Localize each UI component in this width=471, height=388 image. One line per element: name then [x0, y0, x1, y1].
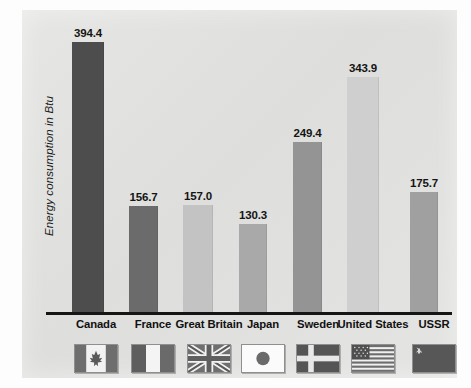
bar-group-great-britain: 157.0 [183, 18, 213, 313]
bar-value-label: 175.7 [410, 177, 438, 189]
x-axis-line [46, 312, 452, 315]
chart-panel: Energy consumption in Btu 394.4156.7157.… [22, 10, 457, 378]
bar [72, 42, 104, 313]
flag-japan-cell [233, 344, 293, 373]
bar-group-japan: 130.3 [239, 18, 267, 313]
flag-ussr-cell [404, 344, 464, 373]
bar [410, 192, 438, 313]
category-label-ussr: USSR [374, 318, 471, 330]
bar [293, 142, 322, 313]
flag-great-britain-icon [187, 344, 231, 373]
bar-group-ussr: 175.7 [410, 18, 438, 313]
bar-value-label: 157.0 [184, 190, 212, 202]
plot-area: 394.4156.7157.0130.3249.4343.9175.7 [46, 18, 450, 313]
flag-row [44, 344, 471, 378]
bar-group-france: 156.7 [129, 18, 158, 313]
bar-group-united-states: 343.9 [347, 18, 379, 313]
bar [129, 206, 158, 314]
bar [183, 205, 213, 313]
bar [239, 224, 267, 313]
bar-value-label: 249.4 [294, 127, 322, 139]
flag-canada-cell [66, 344, 126, 373]
flag-japan-icon [241, 344, 285, 373]
flag-france-icon [131, 344, 175, 373]
flag-sweden-icon [296, 344, 340, 373]
chart-figure: Energy consumption in Btu 394.4156.7157.… [0, 0, 471, 388]
bar-value-label: 394.4 [74, 27, 102, 39]
bar-value-label: 343.9 [349, 62, 377, 74]
bar [347, 77, 379, 313]
bar-group-canada: 394.4 [72, 18, 104, 313]
category-label-row: CanadaFranceGreat BritainJapanSwedenUnit… [44, 318, 471, 338]
flag-ussr-icon [412, 344, 456, 373]
flag-canada-icon [74, 344, 118, 373]
bar-value-label: 156.7 [130, 191, 158, 203]
flag-france-cell [123, 344, 183, 373]
flag-great-britain-cell [179, 344, 239, 373]
bar-value-label: 130.3 [239, 209, 267, 221]
flag-united-states-cell [343, 344, 403, 373]
bar-group-sweden: 249.4 [293, 18, 322, 313]
flag-sweden-cell [288, 344, 348, 373]
flag-united-states-icon [351, 344, 395, 373]
